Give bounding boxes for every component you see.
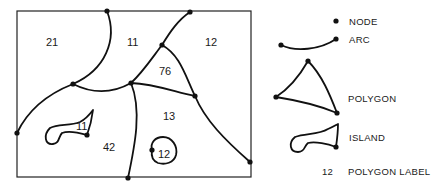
arc-top-left [73, 11, 111, 84]
polygon-label-76: 76 [159, 65, 171, 77]
legend-arc-node-icon [333, 36, 338, 41]
node-icon [84, 132, 89, 137]
polygon-label-13: 13 [163, 110, 175, 122]
arc-mid-left [73, 83, 131, 91]
legend-node-label: NODE [349, 16, 378, 27]
legend-node-icon [333, 18, 338, 23]
legend-polygon-label: POLYGON [348, 93, 396, 104]
node-icon [247, 159, 252, 164]
polygon-label-21: 21 [46, 36, 58, 48]
polygon-label-42: 42 [103, 141, 115, 153]
legend-island-icon [291, 124, 338, 152]
legend-arc-label: ARC [349, 34, 370, 45]
legend-polygon-label-text: POLYGON LABEL [348, 166, 430, 177]
node-icon [187, 9, 192, 14]
legend-arc-icon [281, 39, 336, 49]
legend: NODE ARC POLYGON ISLAND 12 POLYGON LABEL [273, 16, 430, 177]
arc-triangle-bottom [131, 83, 195, 96]
node-icon [192, 93, 197, 98]
arc-center-down [128, 83, 137, 178]
arc-center-to-top [131, 45, 162, 83]
node-icon [128, 80, 133, 85]
polygon-label-island-12: 12 [158, 148, 170, 160]
legend-polygon-node-icon [305, 58, 310, 63]
legend-island-label: ISLAND [349, 132, 385, 143]
legend-polygon-edge [276, 97, 337, 113]
node-icon [159, 42, 164, 47]
node-icon [149, 147, 154, 152]
legend-polygon-node-icon [273, 94, 278, 99]
legend-polygon-label-number: 12 [322, 166, 333, 177]
polygon-label-island-11: 11 [76, 120, 87, 132]
node-icon [104, 8, 109, 13]
polygon-label-11: 11 [127, 36, 138, 48]
arc-top-right [162, 12, 190, 45]
node-icon [70, 81, 75, 86]
arc-right-down [195, 96, 250, 162]
legend-arc-node-icon [278, 42, 283, 47]
legend-polygon-icon [276, 61, 308, 97]
node-icon [125, 175, 130, 180]
polygon-label-12: 12 [205, 36, 217, 48]
map-nodes [14, 8, 252, 180]
legend-island-node-icon [333, 144, 338, 149]
legend-polygon-node-icon [334, 110, 339, 115]
topology-diagram: 21 11 12 76 13 11 42 12 NODE ARC POLYGON… [0, 0, 447, 189]
node-icon [14, 130, 19, 135]
